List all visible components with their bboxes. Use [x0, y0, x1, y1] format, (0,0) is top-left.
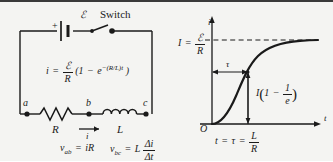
v-ab-subscript: ab — [64, 148, 71, 156]
current-eq-close: ) — [126, 65, 129, 76]
asymptote-lhs: I — [178, 37, 181, 48]
asymptote-frac-num: ℰ — [195, 32, 205, 45]
resistor-label: R — [52, 124, 59, 135]
current-eq-frac-den: R — [63, 73, 73, 85]
value-at-tau-fraction: 1 e — [283, 82, 292, 106]
switch-terminal-right — [109, 28, 115, 34]
current-equation: i = ℰ R (1 − e−(R/L)t ) — [46, 60, 129, 84]
current-eq-equals: = — [51, 65, 60, 76]
inductor-label: L — [117, 124, 123, 135]
time-constant-equals-2: = — [238, 135, 247, 146]
value-at-tau-label: I(1 − 1 e ) — [256, 82, 297, 106]
v-bc-equation: vbc = L Δi Δt — [110, 138, 155, 161]
asymptote-fraction: ℰ R — [195, 32, 205, 56]
value-dimension-arrow — [246, 72, 251, 124]
y-axis-label: i — [208, 18, 211, 27]
value-at-tau-close-paren: ) — [292, 86, 297, 102]
asymptote-frac-den: R — [195, 45, 205, 57]
switch-terminal-left — [90, 29, 94, 33]
tau-dimension-arrow — [212, 70, 248, 75]
time-constant-t: t — [215, 135, 218, 146]
current-eq-fraction: ℰ R — [63, 60, 73, 84]
v-ab-equals: = — [74, 142, 83, 153]
node-dot-a — [24, 111, 29, 116]
current-eq-exp-power: −(R/L)t — [102, 64, 123, 72]
v-ab-equation: vab = iR — [60, 142, 94, 157]
origin-label: O — [200, 124, 207, 134]
time-constant-frac-den: R — [249, 143, 259, 155]
value-at-tau-minus: − — [272, 87, 281, 98]
current-label: i — [86, 132, 89, 141]
curve-tau-point — [247, 71, 250, 74]
node-dot-b — [86, 111, 91, 116]
asymptote-label: I = ℰ R — [178, 32, 205, 56]
node-dot-c — [143, 111, 148, 116]
v-bc-frac-num: Δi — [143, 138, 156, 151]
inductor-symbol — [103, 109, 137, 114]
time-constant-equals-1: = — [220, 135, 229, 146]
resistor-symbol — [40, 108, 72, 120]
current-eq-open: (1 — [75, 65, 83, 76]
x-axis-arrowhead — [314, 121, 321, 126]
v-bc-subscript: bc — [114, 149, 121, 157]
battery-plus-sign: + — [52, 21, 58, 31]
graph-axes — [200, 16, 321, 127]
v-bc-coefficient: L — [135, 143, 140, 154]
emf-label: ℰ — [80, 10, 86, 20]
current-arrow-head — [94, 126, 99, 132]
rl-circuit-figure: ℰ + Switch a b c R L i i = ℰ R (1 − e−(R… — [0, 0, 333, 161]
time-constant-fraction: L R — [249, 130, 259, 154]
time-constant-frac-num: L — [249, 130, 259, 143]
v-bc-frac-den: Δt — [143, 151, 156, 162]
time-constant-tau: τ — [232, 135, 236, 146]
node-label-c: c — [143, 98, 147, 108]
current-eq-lhs: i — [46, 65, 49, 76]
value-at-tau-one: 1 — [264, 87, 269, 98]
switch-blade — [92, 25, 108, 31]
v-bc-equals: = — [124, 143, 133, 154]
time-constant-label: t = τ = L R — [215, 130, 259, 154]
switch-label: Switch — [100, 9, 131, 20]
v-bc-fraction: Δi Δt — [143, 138, 156, 161]
value-at-tau-frac-den: e — [283, 95, 292, 107]
value-at-tau-frac-num: 1 — [283, 82, 292, 95]
current-eq-frac-num: ℰ — [63, 60, 73, 73]
current-eq-minus: − — [86, 65, 95, 76]
tau-marker-label: τ — [226, 60, 229, 69]
v-ab-rhs: iR — [85, 142, 94, 153]
x-axis-label: t — [324, 114, 327, 123]
asymptote-equals: = — [184, 37, 193, 48]
node-label-a: a — [23, 98, 28, 108]
node-label-b: b — [86, 98, 91, 108]
